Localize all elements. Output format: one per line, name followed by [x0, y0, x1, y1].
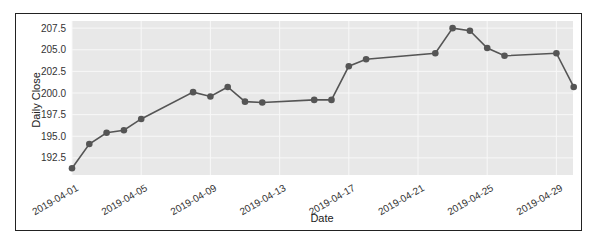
x-tick-label: 2019-04-21 — [376, 182, 426, 217]
data-point — [224, 84, 231, 91]
x-tick-label: 2019-04-25 — [445, 182, 495, 217]
data-point — [311, 97, 318, 104]
y-tick-label: 202.5 — [41, 66, 66, 77]
data-point — [467, 27, 474, 34]
x-tick-label: 2019-04-13 — [238, 182, 288, 217]
data-point — [363, 56, 370, 63]
y-tick-label: 192.5 — [41, 152, 66, 163]
data-point — [138, 116, 145, 123]
y-tick-label: 205.0 — [41, 44, 66, 55]
data-point — [86, 141, 93, 148]
y-tick-label: 197.5 — [41, 109, 66, 120]
y-tick-label: 200.0 — [41, 88, 66, 99]
data-point — [449, 25, 456, 32]
x-axis-label: Date — [310, 212, 333, 224]
data-point — [570, 84, 577, 91]
x-axis-ticks: 2019-04-012019-04-052019-04-092019-04-13… — [30, 182, 565, 217]
x-tick-label: 2019-04-01 — [30, 182, 80, 217]
line-chart: 192.5195.0197.5200.0202.5205.0207.5 2019… — [0, 0, 599, 246]
data-point — [242, 98, 249, 105]
data-point — [328, 97, 335, 104]
data-point — [207, 93, 214, 100]
data-point — [121, 127, 128, 134]
data-point — [553, 50, 560, 57]
data-point — [501, 53, 508, 60]
y-axis-ticks: 192.5195.0197.5200.0202.5205.0207.5 — [41, 23, 66, 164]
y-tick-label: 195.0 — [41, 131, 66, 142]
y-axis-label: Daily Close — [30, 72, 42, 128]
data-point — [484, 45, 491, 52]
data-point — [190, 89, 197, 96]
plot-area — [72, 21, 573, 175]
data-point — [103, 129, 110, 136]
x-tick-label: 2019-04-29 — [515, 182, 565, 217]
x-tick-label: 2019-04-09 — [169, 182, 219, 217]
x-tick-label: 2019-04-05 — [99, 182, 149, 217]
data-point — [259, 99, 266, 106]
data-point — [432, 50, 439, 57]
data-point — [69, 165, 76, 172]
data-point — [346, 63, 353, 70]
y-tick-label: 207.5 — [41, 23, 66, 34]
